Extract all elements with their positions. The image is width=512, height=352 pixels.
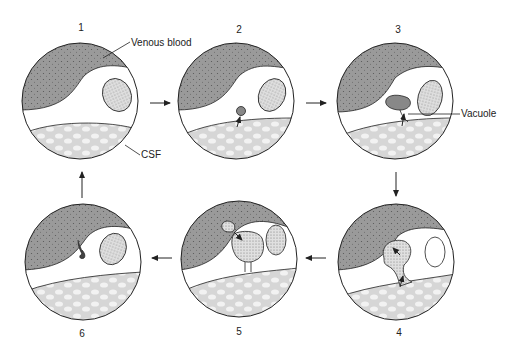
stage-number-2: 2 bbox=[229, 24, 249, 35]
stage-1 bbox=[20, 40, 140, 165]
stage-number-6: 6 bbox=[72, 328, 92, 339]
stage-number-5: 5 bbox=[229, 326, 249, 337]
stage-5 bbox=[179, 198, 299, 323]
label-vacuole: Vacuole bbox=[461, 108, 496, 119]
stage-6 bbox=[23, 202, 143, 327]
stage-2 bbox=[176, 40, 296, 165]
vesicle bbox=[237, 107, 246, 116]
label-venous-blood: Venous blood bbox=[131, 37, 192, 48]
stage-number-3: 3 bbox=[388, 24, 408, 35]
stage-4 bbox=[336, 200, 456, 325]
stage-number-4: 4 bbox=[389, 327, 409, 338]
label-csf: CSF bbox=[141, 149, 161, 160]
stage-number-1: 1 bbox=[71, 22, 91, 33]
vacuole bbox=[386, 95, 411, 110]
cycle-diagram bbox=[0, 0, 512, 352]
stage-3 bbox=[335, 40, 460, 165]
diagram-canvas: 1 2 3 4 5 6 Venous blood CSF Vacuole bbox=[0, 0, 512, 352]
